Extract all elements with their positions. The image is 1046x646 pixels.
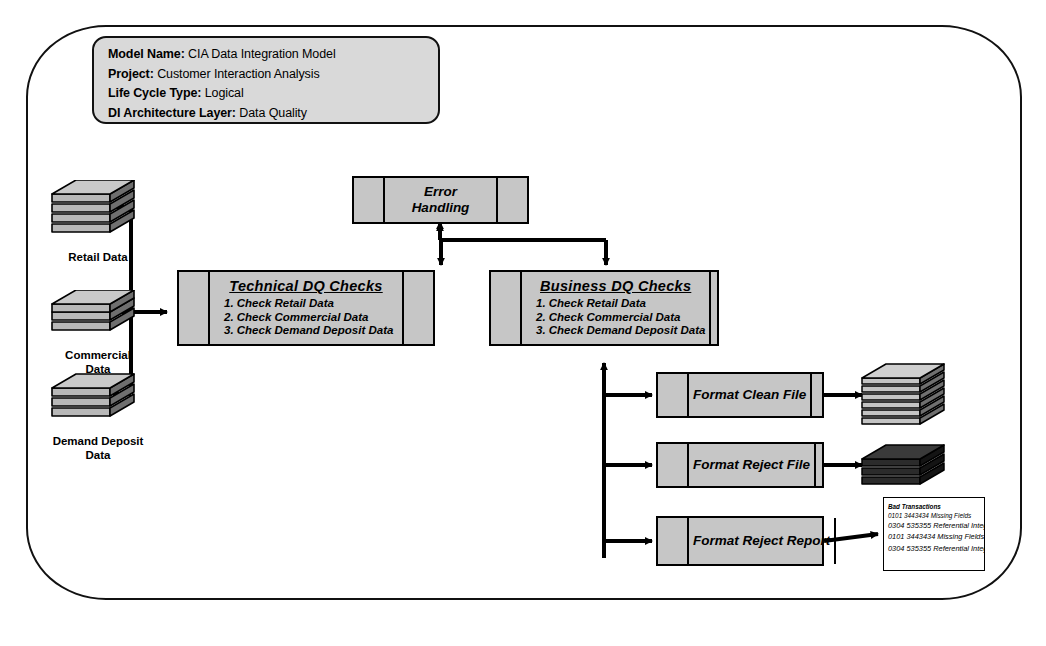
process-format-clean-file[interactable]: Format Clean File: [656, 372, 824, 418]
report-line-2: 0304 535355 Referential Integrity: [888, 520, 984, 531]
metadata-label-di-architecture-layer: DI Architecture Layer:: [108, 106, 236, 120]
process-left-bar: [658, 374, 689, 416]
process-left-bar: [179, 272, 210, 344]
source-stack-demand-deposit-data: Demand Deposit Data: [48, 370, 148, 462]
technical-dq-item-2: 2. Check Commercial Data: [224, 311, 368, 325]
source-stack-commercial-data: Commercial Data: [48, 290, 148, 376]
process-right-bar: [402, 272, 433, 344]
process-body: Error Handling: [385, 178, 496, 222]
process-left-bar: [354, 178, 385, 222]
format-clean-file-label: Format Clean File: [693, 387, 806, 403]
output-stack-reject-file: [858, 436, 958, 498]
model-metadata-box: Model Name: CIA Data Integration Model P…: [92, 36, 440, 124]
source-label-demand-deposit-data-line1: Demand Deposit: [48, 434, 148, 448]
metadata-label-model-name: Model Name:: [108, 47, 185, 61]
diagram-canvas: Model Name: CIA Data Integration Model P…: [0, 0, 1046, 646]
process-right-bar: [814, 444, 845, 486]
report-line-3: 0101 3443434 Missing Fields: [888, 531, 984, 542]
report-line-1: 0101 3443434 Missing Fields: [888, 511, 984, 520]
process-format-reject-report[interactable]: Format Reject Report: [656, 516, 824, 566]
retail-data-stack-icon: [48, 180, 144, 248]
metadata-value-di-architecture-layer: Data Quality: [239, 106, 307, 120]
process-left-bar: [658, 444, 689, 486]
report-title: Bad Transactions: [888, 503, 984, 511]
reject-file-stack-icon: [858, 436, 958, 498]
process-left-bar: [491, 272, 522, 344]
source-label-retail-data: Retail Data: [48, 250, 148, 264]
process-body: Format Reject File: [689, 444, 814, 486]
technical-dq-item-1: 1. Check Retail Data: [224, 297, 334, 311]
technical-dq-title: Technical DQ Checks: [229, 278, 382, 294]
metadata-label-life-cycle-type: Life Cycle Type:: [108, 86, 201, 100]
source-stack-retail-data: Retail Data: [48, 180, 148, 264]
process-left-bar: [658, 518, 689, 564]
process-format-reject-file[interactable]: Format Reject File: [656, 442, 824, 488]
metadata-row-life-cycle-type: Life Cycle Type: Logical: [108, 84, 438, 104]
process-body: Format Clean File: [689, 374, 810, 416]
process-right-bar: [834, 518, 865, 564]
process-right-bar: [709, 272, 740, 344]
process-body: Technical DQ Checks 1. Check Retail Data…: [210, 272, 402, 344]
process-error-handling[interactable]: Error Handling: [352, 176, 529, 224]
business-dq-title: Business DQ Checks: [540, 278, 691, 294]
commercial-data-stack-icon: [48, 290, 144, 346]
metadata-label-project: Project:: [108, 67, 154, 81]
metadata-row-di-architecture-layer: DI Architecture Layer: Data Quality: [108, 104, 438, 124]
bad-transactions-report: Bad Transactions 0101 3443434 Missing Fi…: [883, 497, 985, 571]
report-line-4: 0304 535355 Referential Integrity: [888, 543, 984, 554]
technical-dq-item-3: 3. Check Demand Deposit Data: [224, 324, 393, 338]
business-dq-item-1: 1. Check Retail Data: [536, 297, 646, 311]
demand-deposit-data-stack-icon: [48, 370, 144, 432]
error-handling-label-line1: Error: [424, 184, 457, 200]
source-label-demand-deposit-data-line2: Data: [48, 448, 148, 462]
format-reject-report-label: Format Reject Report: [693, 533, 830, 549]
process-technical-dq-checks[interactable]: Technical DQ Checks 1. Check Retail Data…: [177, 270, 435, 346]
source-label-commercial-data-line1: Commercial: [48, 348, 148, 362]
format-reject-file-label: Format Reject File: [693, 457, 810, 473]
business-dq-item-2: 2. Check Commercial Data: [536, 311, 680, 325]
error-handling-label-line2: Handling: [412, 200, 470, 216]
process-body: Format Reject Report: [689, 518, 834, 564]
metadata-value-project: Customer Interaction Analysis: [157, 67, 319, 81]
clean-file-stack-icon: [858, 362, 958, 434]
process-body: Business DQ Checks 1. Check Retail Data …: [522, 272, 709, 344]
metadata-value-life-cycle-type: Logical: [205, 86, 244, 100]
output-stack-clean-file: [858, 362, 958, 434]
metadata-row-project: Project: Customer Interaction Analysis: [108, 65, 438, 85]
process-right-bar: [810, 374, 841, 416]
process-right-bar: [496, 178, 527, 222]
metadata-value-model-name: CIA Data Integration Model: [188, 47, 336, 61]
metadata-row-model-name: Model Name: CIA Data Integration Model: [108, 45, 438, 65]
business-dq-item-3: 3. Check Demand Deposit Data: [536, 324, 705, 338]
process-business-dq-checks[interactable]: Business DQ Checks 1. Check Retail Data …: [489, 270, 719, 346]
